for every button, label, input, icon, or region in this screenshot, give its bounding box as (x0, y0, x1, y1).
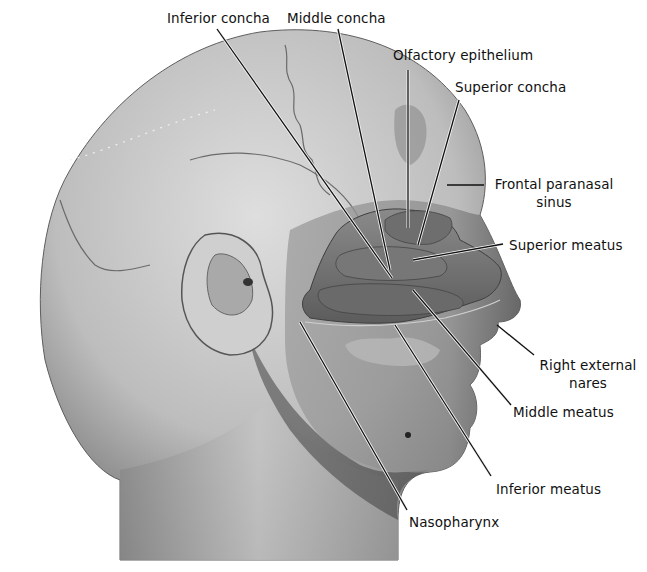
mental-foramen (405, 432, 411, 438)
label-olfactory-epithelium: Olfactory epithelium (393, 46, 533, 64)
label-frontal-paranasal-sinus: Frontal paranasal sinus (490, 175, 618, 211)
label-nasopharynx: Nasopharynx (409, 513, 499, 531)
label-middle-meatus: Middle meatus (513, 403, 614, 421)
label-frontal-paranasal-sinus-line1: Frontal paranasal (490, 175, 618, 193)
leader-external-nares (497, 325, 534, 355)
label-superior-concha: Superior concha (455, 78, 566, 96)
label-superior-meatus: Superior meatus (509, 236, 623, 254)
label-inferior-concha: Inferior concha (167, 9, 270, 27)
label-inferior-meatus: Inferior meatus (496, 480, 601, 498)
label-right-external-nares-line1: Right external (536, 356, 640, 374)
label-middle-concha: Middle concha (287, 9, 386, 27)
label-right-external-nares: Right external nares (536, 356, 640, 392)
label-frontal-paranasal-sinus-line2: sinus (490, 193, 618, 211)
label-right-external-nares-line2: nares (536, 374, 640, 392)
